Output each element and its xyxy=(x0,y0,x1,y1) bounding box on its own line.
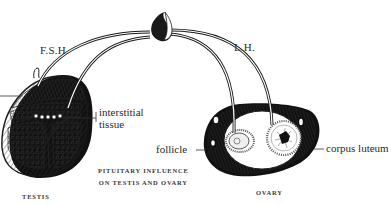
testis-label: TESTIS xyxy=(22,193,50,200)
diagram-canvas xyxy=(0,0,391,204)
follicle-label: follicle xyxy=(156,143,187,155)
follicle-structure xyxy=(226,130,254,152)
corpus-luteum-structure xyxy=(267,121,301,155)
interstitial-label-line2: tissue xyxy=(99,118,144,130)
interstitial-tissue-label: interstitial tissue xyxy=(99,106,144,130)
lh-label: L.H. xyxy=(234,41,255,53)
diagram-title: PITUITARY INFLUENCE ON TESTIS AND OVARY xyxy=(98,165,189,189)
diagram-title-line2: ON TESTIS AND OVARY xyxy=(98,177,189,189)
corpus-luteum-label: corpus luteum xyxy=(326,142,389,154)
ovary-organ xyxy=(196,103,324,176)
pituitary-diagram: F.S.H. L.H. interstitial tissue follicle… xyxy=(0,0,391,204)
ovary-label: OVARY xyxy=(256,189,283,196)
diagram-title-line1: PITUITARY INFLUENCE xyxy=(98,165,189,177)
fsh-label: F.S.H. xyxy=(40,44,69,56)
interstitial-label-line1: interstitial xyxy=(99,106,144,118)
pituitary-gland xyxy=(151,12,172,41)
